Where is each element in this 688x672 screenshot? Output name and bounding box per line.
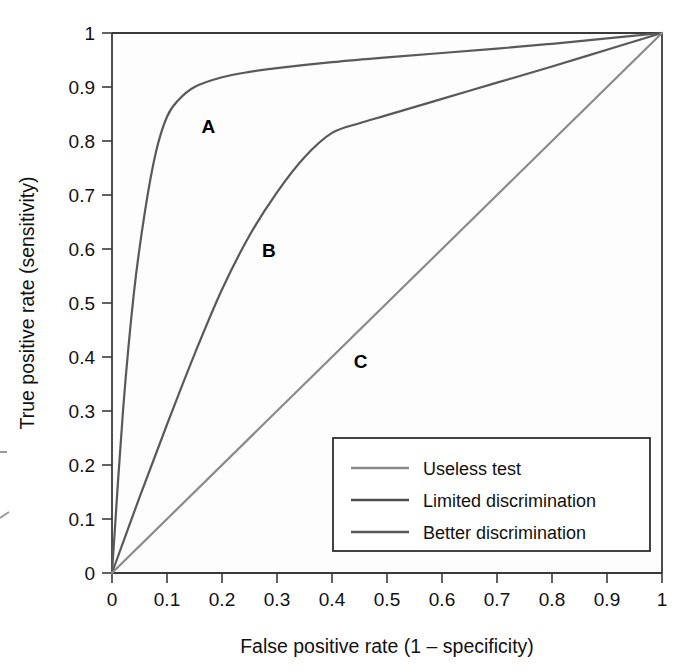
y-tick-label-9: 0.9 <box>69 77 95 98</box>
x-tick-label-5: 0.5 <box>374 589 400 610</box>
curve-annotation-b: B <box>262 240 276 261</box>
x-tick-label-1: 0.1 <box>154 589 180 610</box>
x-tick-label-4: 0.4 <box>319 589 346 610</box>
legend-label-1: Limited discrimination <box>423 491 596 511</box>
x-tick-label-3: 0.3 <box>264 589 290 610</box>
y-axis-title: True positive rate (sensitivity) <box>16 177 38 430</box>
y-axis-ticks <box>102 33 112 573</box>
x-axis-ticks <box>112 573 662 583</box>
y-tick-label-0: 0 <box>84 563 95 584</box>
y-tick-label-6: 0.6 <box>69 239 95 260</box>
curve-annotation-a: A <box>201 116 215 137</box>
y-tick-label-7: 0.7 <box>69 185 95 206</box>
x-tick-label-2: 0.2 <box>209 589 235 610</box>
y-tick-label-5: 0.5 <box>69 293 95 314</box>
roc-chart-figure: 00.10.20.30.40.50.60.70.80.91 00.10.20.3… <box>0 0 688 672</box>
curve-annotation-c: C <box>354 351 368 372</box>
x-tick-label-6: 0.6 <box>429 589 455 610</box>
y-tick-label-1: 0.1 <box>69 509 95 530</box>
y-axis-tick-labels: 00.10.20.30.40.50.60.70.80.91 <box>69 23 96 584</box>
legend-label-2: Better discrimination <box>423 523 586 543</box>
x-tick-label-7: 0.7 <box>484 589 510 610</box>
x-tick-label-10: 1 <box>657 589 668 610</box>
legend-label-0: Useless test <box>423 459 521 479</box>
page-edge-mark-bottom <box>0 512 9 518</box>
y-tick-label-8: 0.8 <box>69 131 95 152</box>
y-tick-label-10: 1 <box>84 23 95 44</box>
x-tick-label-8: 0.8 <box>539 589 565 610</box>
x-tick-label-9: 0.9 <box>594 589 620 610</box>
x-axis-tick-labels: 00.10.20.30.40.50.60.70.80.91 <box>107 589 668 610</box>
y-tick-label-4: 0.4 <box>69 347 96 368</box>
x-axis-title: False positive rate (1 – specificity) <box>240 635 534 657</box>
y-tick-label-3: 0.3 <box>69 401 95 422</box>
chart-legend: Useless testLimited discriminationBetter… <box>333 438 650 551</box>
y-tick-label-2: 0.2 <box>69 455 95 476</box>
x-tick-label-0: 0 <box>107 589 118 610</box>
